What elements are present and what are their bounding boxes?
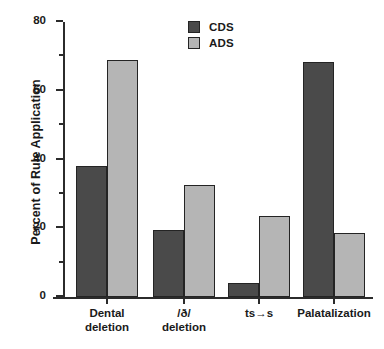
legend-label: ADS: [209, 37, 234, 49]
bar-ads: [334, 233, 365, 297]
bar-cds: [228, 283, 259, 297]
bar-group: [153, 22, 215, 297]
x-tick: [258, 297, 260, 304]
y-tick-major: 60: [56, 89, 63, 91]
y-tick-major: 80: [56, 20, 63, 22]
y-tick-major: 40: [56, 158, 63, 160]
x-tick: [183, 297, 185, 304]
legend-label: CDS: [209, 21, 234, 33]
y-tick-label: 20: [33, 220, 46, 232]
y-tick-label: 40: [33, 152, 46, 164]
x-axis-line: [53, 297, 373, 299]
bar-cds: [153, 230, 184, 297]
y-tick-label: 80: [33, 14, 46, 26]
y-tick-major: 0: [56, 295, 63, 297]
x-tick-label: /ð/ deletion: [162, 306, 206, 334]
y-tick-label: 0: [40, 289, 46, 301]
bar-ads: [107, 60, 138, 297]
bar-group: [303, 22, 365, 297]
bar-group: [76, 22, 138, 297]
plot-area: 020406080 Dental deletion/ð/ deletionts→…: [63, 22, 371, 297]
x-tick-label: Palatalization: [297, 306, 371, 320]
chart-legend: CDSADS: [188, 21, 234, 49]
x-tick-label: Dental deletion: [85, 306, 129, 334]
legend-swatch-icon: [188, 21, 200, 33]
legend-item-cds: CDS: [188, 21, 234, 33]
x-tick: [333, 297, 335, 304]
legend-swatch-icon: [188, 37, 200, 49]
y-tick-major: 20: [56, 226, 63, 228]
x-tick-label: ts→s: [245, 306, 273, 320]
bar-series-container: [63, 22, 371, 297]
bar-cds: [303, 62, 334, 297]
bar-chart-figure: Percent of Rule Application 020406080 De…: [0, 0, 384, 349]
bar-cds: [76, 166, 107, 297]
bar-ads: [259, 216, 290, 297]
x-tick: [106, 297, 108, 304]
y-tick-label: 60: [33, 83, 46, 95]
bar-ads: [184, 185, 215, 297]
bar-group: [228, 22, 290, 297]
legend-item-ads: ADS: [188, 37, 234, 49]
